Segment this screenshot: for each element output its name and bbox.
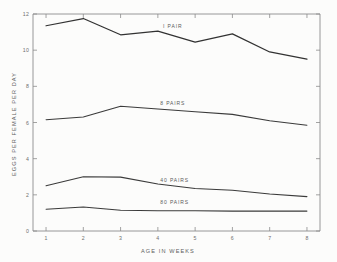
series-label-80-pairs: 80 PAIRS (160, 199, 189, 205)
x-tick-label: 1 (44, 235, 47, 241)
x-tick-label: 8 (305, 235, 308, 241)
x-tick-label: 3 (119, 235, 122, 241)
y-tick-label: 6 (26, 120, 29, 126)
y-tick-label: 0 (26, 228, 29, 234)
series-line-80-pairs (46, 207, 307, 211)
x-tick-label: 4 (156, 235, 159, 241)
chart-page: 12345678 024681012 I PAIR8 PAIRS40 PAIRS… (0, 0, 337, 262)
series-label-40-pairs: 40 PAIRS (160, 177, 189, 183)
y-tick-label: 12 (23, 11, 29, 17)
series-line-8-pairs (46, 106, 307, 125)
x-tick-label: 5 (194, 235, 197, 241)
y-tick-label: 8 (26, 83, 29, 89)
series-inline-labels: I PAIR8 PAIRS40 PAIRS80 PAIRS (160, 23, 189, 204)
figure-container: 12345678 024681012 I PAIR8 PAIRS40 PAIRS… (0, 0, 337, 262)
x-tick-label: 7 (268, 235, 271, 241)
y-tick-label: 10 (23, 47, 29, 53)
series-label-1-pair: I PAIR (163, 23, 182, 29)
y-tick-label: 4 (26, 156, 29, 162)
x-tick-label: 2 (82, 235, 85, 241)
line-chart: 12345678 024681012 I PAIR8 PAIRS40 PAIRS… (0, 0, 337, 262)
y-tick-labels: 024681012 (23, 11, 29, 234)
x-tick-label: 6 (231, 235, 234, 241)
x-axis-title: AGE IN WEEKS (141, 248, 195, 254)
y-tick-label: 2 (26, 192, 29, 198)
x-tick-labels: 12345678 (44, 235, 308, 241)
series-label-8-pairs: 8 PAIRS (160, 100, 185, 106)
y-axis-title: EGGS PER FEMALE PER DAY (11, 72, 17, 176)
